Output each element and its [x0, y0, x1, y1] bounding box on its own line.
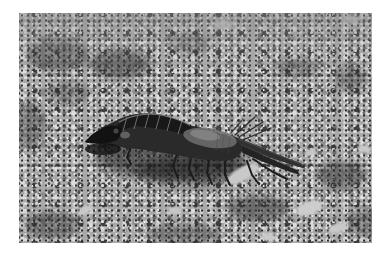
photograph — [19, 13, 372, 243]
photo-top-haze — [19, 13, 372, 243]
